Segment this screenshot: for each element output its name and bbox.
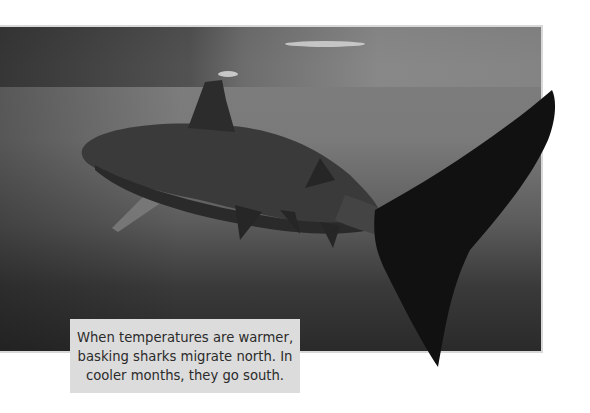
photo-caption: When temperatures are warmer, basking sh… xyxy=(70,319,300,393)
caption-line: basking sharks migrate north. In xyxy=(77,347,293,366)
caption-text: When temperatures are warmer, basking sh… xyxy=(77,328,293,385)
water-shade xyxy=(0,27,180,351)
caption-line: cooler months, they go south. xyxy=(77,366,293,385)
shark-photo xyxy=(0,25,543,353)
caption-line: When temperatures are warmer, xyxy=(77,328,293,347)
